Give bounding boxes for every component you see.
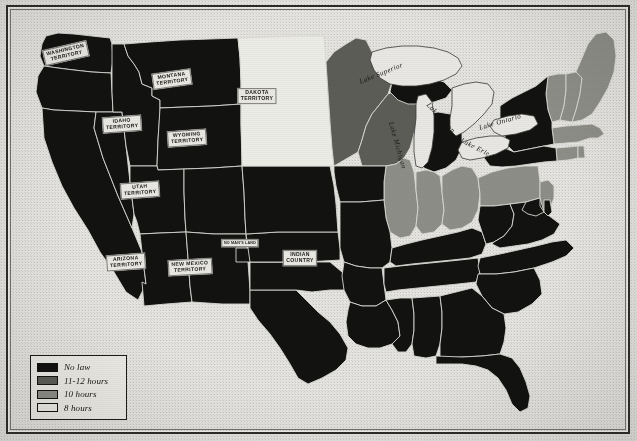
legend-row-hours_8: 8 hours <box>37 402 120 414</box>
legend-row-no_law: No law <box>37 361 120 373</box>
region-oregon <box>36 66 113 112</box>
region-colorado <box>184 166 246 234</box>
region-delaware <box>544 200 552 216</box>
region-indian-country <box>250 262 350 292</box>
map-label-utah-territory: UTAH TERRITORY <box>120 181 160 199</box>
region-pennsylvania <box>478 166 540 206</box>
legend-swatch-hours_11_12 <box>37 376 58 385</box>
region-arkansas <box>342 262 386 306</box>
region-nebraska <box>242 166 338 234</box>
region-rhode-island <box>578 146 585 158</box>
map-label-dakota-territory: DAKOTA TERRITORY <box>237 88 276 104</box>
legend-swatch-hours_10 <box>37 390 58 399</box>
historical-map-figure: WASHINGTON TERRITORYMONTANA TERRITORYDAK… <box>0 0 637 441</box>
legend-label-no_law: No law <box>64 362 90 372</box>
region-alabama <box>412 296 442 358</box>
map-label-arizona-territory: ARIZONA TERRITORY <box>106 253 146 271</box>
map-label-wyoming-territory: WYOMING TERRITORY <box>167 129 207 147</box>
region-indiana <box>416 170 444 234</box>
region-ohio <box>442 166 480 230</box>
legend-label-hours_11_12: 11-12 hours <box>64 376 108 386</box>
legend-swatch-no_law <box>37 363 58 372</box>
map-label-new-mexico-territory: NEW MEXICO TERRITORY <box>168 258 212 276</box>
region-utah <box>130 166 186 234</box>
region-missouri <box>340 200 392 268</box>
lake-superior-shape <box>370 46 462 86</box>
region-massachusetts <box>552 124 604 144</box>
region-connecticut <box>556 146 578 161</box>
region-iowa <box>334 166 386 202</box>
map-label-indian-country: INDIAN COUNTRY <box>283 250 317 266</box>
legend-label-hours_8: 8 hours <box>64 403 92 413</box>
legend-row-hours_10: 10 hours <box>37 388 120 400</box>
legend-swatch-hours_8 <box>37 403 58 412</box>
region-north-carolina <box>478 240 574 274</box>
region-texas <box>250 290 348 384</box>
region-florida <box>436 354 530 412</box>
map-label-idaho-territory: IDAHO TERRITORY <box>102 115 142 133</box>
legend-row-hours_11_12: 11-12 hours <box>37 375 120 387</box>
map-legend: No law11-12 hours10 hours8 hours <box>30 355 127 420</box>
map-label-no-mans-land: NO MAN'S LAND <box>221 239 258 247</box>
legend-label-hours_10: 10 hours <box>64 389 97 399</box>
